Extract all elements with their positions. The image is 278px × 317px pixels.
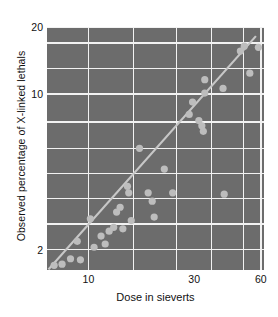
data-point: [241, 43, 248, 50]
data-point: [145, 189, 152, 196]
data-point: [186, 111, 193, 118]
data-point: [169, 189, 176, 196]
data-point: [136, 145, 143, 152]
data-point: [74, 238, 81, 245]
data-point: [117, 204, 124, 211]
data-point: [189, 98, 196, 105]
data-layer: [47, 27, 264, 270]
data-point: [151, 213, 158, 220]
data-point: [58, 261, 65, 268]
data-point: [255, 44, 262, 51]
data-point: [221, 191, 228, 198]
data-point: [119, 225, 126, 232]
data-point: [125, 189, 132, 196]
data-point: [161, 165, 168, 172]
y-tick-label: 2: [1, 244, 43, 256]
y-axis-tick-labels: 21020: [0, 27, 43, 270]
data-point: [200, 128, 207, 135]
data-point: [201, 76, 208, 83]
chart-figure: Observed percentage of X-linked lethals …: [0, 0, 278, 317]
fit-line: [48, 36, 255, 269]
data-point: [110, 224, 117, 231]
x-tick-label: 30: [172, 273, 216, 285]
trend-line: [48, 36, 255, 269]
data-point: [149, 198, 156, 205]
data-point: [51, 262, 58, 269]
data-point: [97, 233, 104, 240]
data-point: [90, 244, 97, 251]
y-tick-label: 10: [1, 88, 43, 100]
scatter-points: [51, 43, 262, 269]
x-axis-tick-labels: 103060: [47, 273, 264, 289]
data-point: [246, 70, 253, 77]
data-point: [102, 240, 109, 247]
data-point: [128, 217, 135, 224]
plot-area: [47, 27, 264, 270]
data-point: [87, 215, 94, 222]
x-tick-label: 60: [239, 273, 278, 285]
data-point: [67, 255, 74, 262]
data-point: [201, 89, 208, 96]
data-point: [124, 183, 131, 190]
y-tick-label: 20: [1, 21, 43, 33]
x-axis-title: Dose in sieverts: [47, 291, 264, 303]
data-point: [219, 85, 226, 92]
data-point: [77, 256, 84, 263]
x-tick-label: 10: [66, 273, 110, 285]
